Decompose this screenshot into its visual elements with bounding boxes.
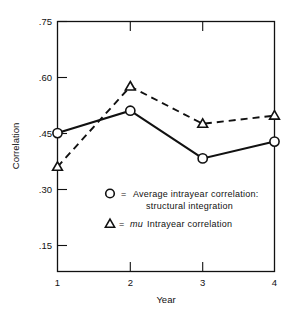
- data-point-marker: [270, 111, 280, 120]
- legend-equals-sign: =: [119, 219, 125, 229]
- legend-circle-icon: [106, 189, 115, 198]
- data-point-marker: [126, 106, 135, 115]
- y-tick-label: .60: [39, 72, 52, 83]
- chart-legend: = Average intrayear correlation: structu…: [105, 189, 258, 229]
- y-tick-label: .30: [39, 184, 52, 195]
- legend-label-circle-line2: structural integration: [146, 201, 233, 211]
- x-axis-tick-labels: 1 2 3 4: [55, 277, 277, 288]
- correlation-line-chart: .75 .60 .45 .30 .15 1 2 3 4 Year Correla…: [0, 0, 307, 322]
- x-axis-title: Year: [156, 294, 175, 305]
- x-tick-label: 4: [272, 277, 277, 288]
- x-tick-label: 3: [200, 277, 205, 288]
- x-tick-label: 1: [55, 277, 60, 288]
- y-tick-label: .45: [39, 128, 52, 139]
- data-point-marker: [198, 154, 207, 163]
- data-point-marker: [270, 137, 279, 146]
- chart-figure: .75 .60 .45 .30 .15 1 2 3 4 Year Correla…: [0, 0, 307, 322]
- y-axis-tick-labels: .75 .60 .45 .30 .15: [39, 16, 52, 251]
- plot-frame: [58, 22, 275, 272]
- y-tick-label: .75: [39, 16, 52, 27]
- y-tick-label: .15: [39, 240, 52, 251]
- series-line-triangle: [58, 87, 275, 167]
- legend-label-triangle-line1: Intrayear correlation: [147, 219, 232, 229]
- series-markers-triangle: [53, 82, 280, 171]
- data-point-marker: [125, 82, 135, 91]
- legend-triangle-icon: [105, 219, 114, 227]
- data-point-marker: [53, 129, 62, 138]
- y-axis-title: Correlation: [10, 123, 21, 169]
- x-tick-label: 2: [128, 277, 133, 288]
- legend-label-circle-line1: Average intrayear correlation:: [133, 189, 258, 199]
- series-line-circle: [58, 111, 275, 159]
- x-axis-ticks: [130, 22, 202, 272]
- legend-label-triangle-prefix: mu: [130, 219, 143, 229]
- legend-equals-sign: =: [121, 189, 127, 199]
